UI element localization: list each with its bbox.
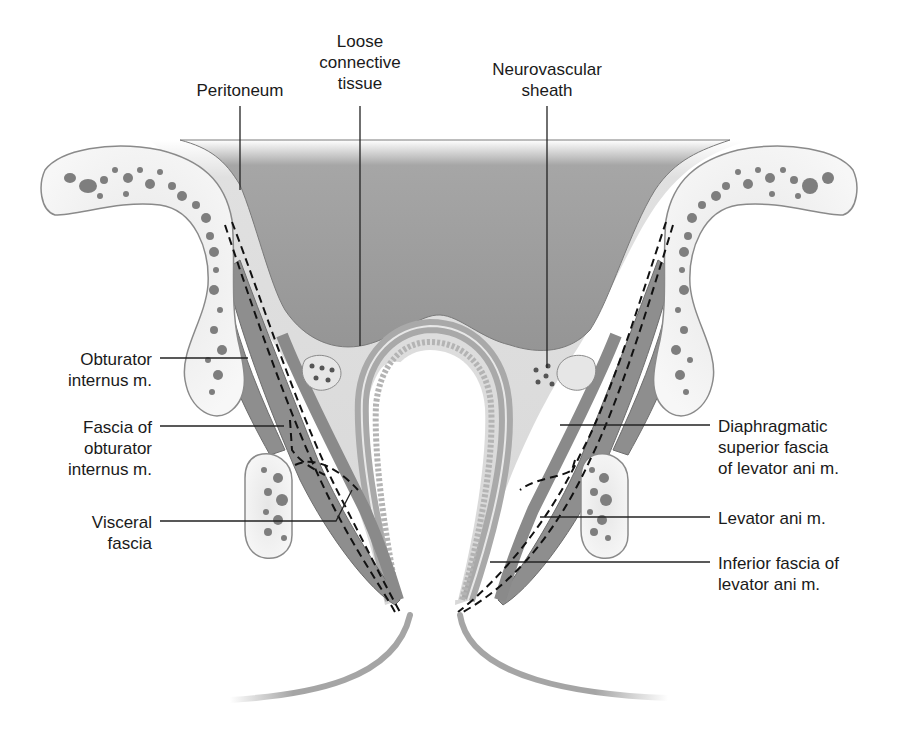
label-inferior-fascia: Inferior fascia of levator ani m. bbox=[718, 553, 893, 595]
label-obturator-internus: Obturator internus m. bbox=[20, 349, 152, 391]
label-loose-connective-tissue: Loose connective tissue bbox=[305, 31, 415, 94]
perineal-skin bbox=[230, 615, 668, 700]
label-diaphragmatic-superior-fascia: Diaphragmatic superior fascia of levator… bbox=[718, 416, 893, 479]
label-peritoneum: Peritoneum bbox=[185, 80, 295, 101]
label-visceral-fascia: Visceral fascia bbox=[20, 512, 152, 554]
label-levator-ani: Levator ani m. bbox=[718, 508, 893, 529]
label-fascia-obturator-internus: Fascia of obturator internus m. bbox=[20, 417, 152, 480]
label-neurovascular-sheath: Neurovascular sheath bbox=[482, 59, 612, 101]
